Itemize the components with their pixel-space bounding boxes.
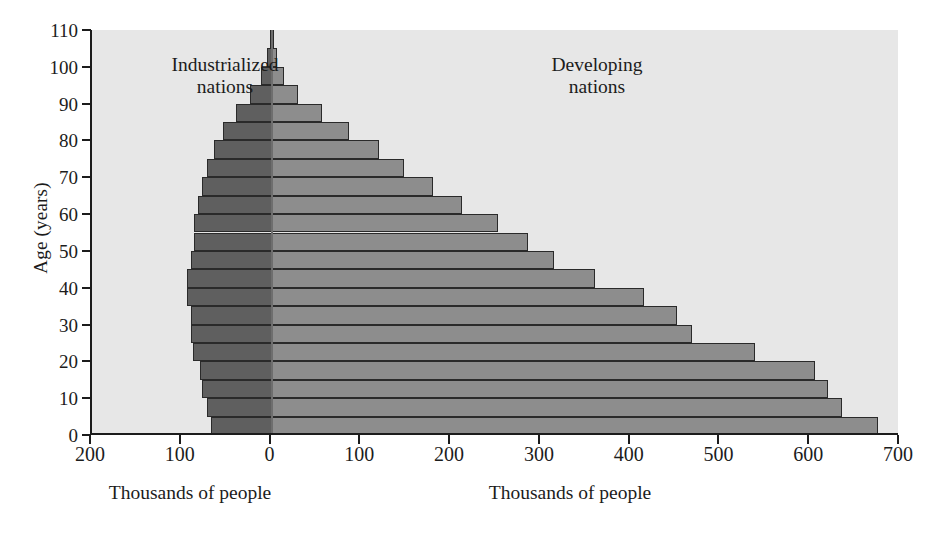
- bar-developing: [272, 214, 498, 232]
- bar-industrialized: [198, 196, 272, 214]
- bar-developing: [272, 104, 322, 122]
- bar-industrialized: [200, 361, 272, 379]
- panel-label-developing: Developing nations: [492, 54, 702, 99]
- bar-industrialized: [194, 233, 271, 251]
- bar-developing: [272, 417, 878, 435]
- bar-industrialized: [187, 269, 271, 287]
- bar-developing: [272, 325, 692, 343]
- bar-developing: [272, 159, 405, 177]
- x-tick-label: 200: [55, 444, 125, 464]
- x-tick-label: 100: [145, 444, 215, 464]
- population-pyramid-figure: Age (years) 0102030405060708090100110 In…: [0, 0, 927, 539]
- plot-area: Industrialized nations Developing nation…: [90, 30, 898, 435]
- y-tick-label: 80: [32, 131, 78, 150]
- bar-developing: [272, 122, 349, 140]
- bar-industrialized: [194, 214, 271, 232]
- y-tick-label: 50: [32, 241, 78, 260]
- x-tick-label: 200: [414, 444, 484, 464]
- x-tick-label: 500: [683, 444, 753, 464]
- bar-industrialized: [207, 159, 272, 177]
- bar-industrialized: [191, 306, 272, 324]
- bar-industrialized: [236, 104, 272, 122]
- y-tick-label: 10: [32, 389, 78, 408]
- x-tick-label: 300: [504, 444, 574, 464]
- bar-developing: [272, 306, 678, 324]
- panel-label-industrialized: Industrialized nations: [120, 54, 330, 99]
- bar-developing: [272, 343, 755, 361]
- y-tick-label: 40: [32, 278, 78, 297]
- x-axis-tick-labels: 2001000100200300400500600700: [0, 444, 927, 474]
- y-tick-label: 20: [32, 352, 78, 371]
- y-tick-label: 90: [32, 94, 78, 113]
- bar-developing: [272, 380, 829, 398]
- bar-industrialized: [193, 343, 272, 361]
- bar-industrialized: [211, 417, 272, 435]
- bar-industrialized: [187, 288, 271, 306]
- bar-industrialized: [223, 122, 271, 140]
- y-tick-label: 30: [32, 315, 78, 334]
- bar-developing: [272, 288, 645, 306]
- bar-developing: [272, 177, 434, 195]
- x-axis-tick-marks: [90, 435, 898, 444]
- bar-developing: [272, 398, 842, 416]
- bar-developing: [272, 361, 815, 379]
- y-tick-label: 100: [32, 57, 78, 76]
- bar-industrialized: [191, 325, 272, 343]
- bar-developing: [272, 233, 529, 251]
- bar-developing: [272, 140, 380, 158]
- x-tick-label: 700: [863, 444, 927, 464]
- x-axis-caption-left: Thousands of people: [60, 482, 320, 504]
- bar-developing: [272, 269, 595, 287]
- y-tick-label: 0: [32, 426, 78, 445]
- bar-industrialized: [191, 251, 272, 269]
- x-tick-label: 100: [324, 444, 394, 464]
- x-tick-label: 600: [773, 444, 843, 464]
- y-tick-label: 70: [32, 168, 78, 187]
- x-tick-label: 400: [594, 444, 664, 464]
- bar-industrialized: [207, 398, 272, 416]
- x-tick-label: 0: [235, 444, 305, 464]
- x-axis-caption-right: Thousands of people: [420, 482, 720, 504]
- y-tick-label: 60: [32, 205, 78, 224]
- bar-industrialized: [202, 177, 272, 195]
- bar-industrialized: [214, 140, 271, 158]
- bar-developing: [272, 251, 555, 269]
- y-tick-label: 110: [32, 21, 78, 40]
- bar-industrialized: [202, 380, 272, 398]
- bar-developing: [272, 196, 462, 214]
